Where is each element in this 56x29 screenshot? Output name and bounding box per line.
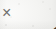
operand-integer-part: 1 bbox=[52, 22, 56, 29]
operand-value: 1·4 bbox=[24, 1, 56, 29]
multiplication-sign-icon: × bbox=[2, 5, 11, 21]
scanned-math-fragment: × 1·4 bbox=[0, 0, 56, 29]
